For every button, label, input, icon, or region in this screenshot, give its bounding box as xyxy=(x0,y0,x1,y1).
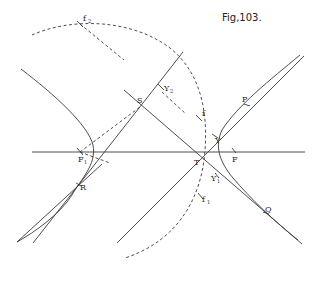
label-f2: f 2 xyxy=(83,14,91,24)
label-f: f xyxy=(202,109,206,118)
figure-title: Fig,103. xyxy=(222,12,262,23)
label-f1: f 1 xyxy=(202,195,210,205)
svg-text:Y: Y xyxy=(210,174,217,183)
label-P: P xyxy=(242,95,248,104)
svg-text:F: F xyxy=(232,155,238,164)
label-Y: Y xyxy=(214,136,221,145)
svg-text:Y: Y xyxy=(163,84,170,93)
dashed-line-y2 xyxy=(162,92,186,114)
label-R: R xyxy=(80,183,87,192)
label-F: F xyxy=(232,155,238,164)
svg-text:f: f xyxy=(83,14,87,23)
label-Y1: Y 1 xyxy=(210,174,220,184)
label-T: T xyxy=(194,158,200,167)
hyperbola-diagram: Fig,103. f 2 f f 1 xyxy=(0,0,317,287)
svg-text:1: 1 xyxy=(217,178,220,184)
svg-text:P: P xyxy=(242,95,248,104)
dashed-line-f2 xyxy=(80,24,124,60)
svg-text:1: 1 xyxy=(207,199,210,205)
svg-text:f: f xyxy=(202,195,206,204)
label-Y2: Y 2 xyxy=(163,84,173,94)
label-Q: Q xyxy=(265,205,272,214)
tangent-line-p xyxy=(117,56,304,243)
tick-marks xyxy=(76,21,269,214)
svg-text:T: T xyxy=(194,158,200,167)
svg-text:2: 2 xyxy=(88,18,91,24)
label-S: S xyxy=(137,96,142,105)
svg-text:Q: Q xyxy=(265,205,272,214)
tangent-line-q xyxy=(124,90,302,244)
label-F1: F 1 xyxy=(78,155,87,165)
svg-text:2: 2 xyxy=(170,88,173,94)
svg-text:Y: Y xyxy=(214,136,221,145)
svg-text:S: S xyxy=(137,96,142,105)
hyperbola-right-branch xyxy=(218,55,300,240)
svg-text:1: 1 xyxy=(84,159,87,165)
svg-text:R: R xyxy=(80,183,87,192)
tangent-line-r xyxy=(33,52,183,243)
tangent-line-r2 xyxy=(17,164,102,242)
svg-text:f: f xyxy=(202,109,206,118)
auxiliary-circle-arc xyxy=(32,24,206,258)
